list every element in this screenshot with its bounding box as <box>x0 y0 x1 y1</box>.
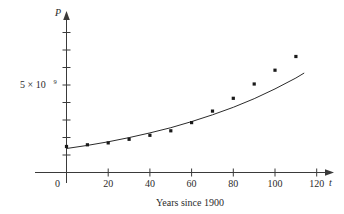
x-tick-label-0: 0 <box>55 178 60 189</box>
data-point <box>148 134 151 137</box>
data-point <box>169 129 172 132</box>
population-growth-figure: P t 5 × 10 9 0 20 40 60 80 100 120 Years… <box>0 0 344 214</box>
data-point <box>107 141 110 144</box>
y-axis-label: P <box>54 7 61 18</box>
data-point <box>65 145 68 148</box>
data-points-group <box>65 55 298 148</box>
x-tick-label-120: 120 <box>309 178 324 189</box>
y-axis-arrow-icon <box>63 11 70 20</box>
data-point <box>232 97 235 100</box>
x-axis-arrow-icon <box>325 169 334 176</box>
x-tick-label-20: 20 <box>103 178 113 189</box>
x-tick-label-60: 60 <box>187 178 197 189</box>
data-point <box>190 121 193 124</box>
y-tick-label-5e9: 5 × 10 <box>20 79 46 90</box>
data-point <box>294 55 297 58</box>
data-point <box>211 110 214 113</box>
x-tick-label-100: 100 <box>268 178 283 189</box>
data-point <box>128 138 131 141</box>
x-tick-label-80: 80 <box>228 178 238 189</box>
x-tick-label-40: 40 <box>145 178 155 189</box>
exponential-fit-curve <box>67 73 305 149</box>
chart-canvas: P t 5 × 10 9 0 20 40 60 80 100 120 Years… <box>0 0 344 214</box>
x-axis-label: t <box>329 177 332 188</box>
y-tick-label-exponent: 9 <box>54 78 57 85</box>
data-point <box>253 82 256 85</box>
data-point <box>273 69 276 72</box>
data-point <box>86 143 89 146</box>
chart-caption: Years since 1900 <box>156 197 224 208</box>
